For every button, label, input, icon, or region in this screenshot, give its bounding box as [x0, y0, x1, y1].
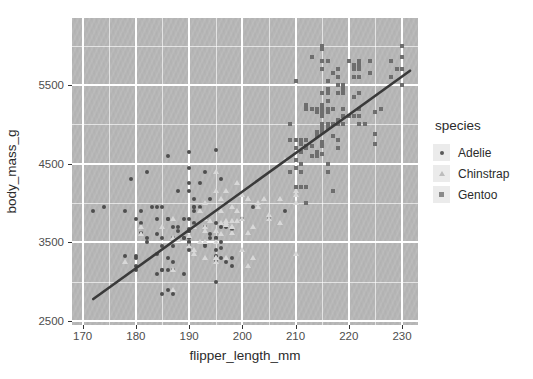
data-point-chinstrap: [223, 218, 229, 223]
y-tick-mark: [68, 164, 72, 165]
data-point-chinstrap: [234, 218, 240, 223]
data-point-chinstrap: [245, 196, 251, 201]
x-tick-label: 210: [286, 330, 305, 342]
data-point-gentoo: [299, 170, 303, 174]
data-point-adelie: [171, 244, 175, 248]
data-point-gentoo: [326, 107, 330, 111]
data-point-chinstrap: [282, 157, 288, 162]
x-tick-mark: [83, 325, 84, 329]
data-point-adelie: [166, 217, 170, 221]
data-point-chinstrap: [277, 196, 283, 201]
data-point-gentoo: [326, 110, 330, 114]
legend-key-swatch: [433, 186, 450, 203]
y-axis-label: body_mass_g: [0, 18, 22, 325]
data-point-adelie: [182, 236, 186, 240]
gridline-minor-vertical: [109, 18, 110, 325]
data-point-adelie: [219, 177, 223, 181]
legend-item-adelie[interactable]: Adelie: [433, 142, 533, 163]
data-point-adelie: [139, 221, 143, 225]
data-point-gentoo: [352, 114, 356, 118]
data-point-chinstrap: [170, 216, 176, 221]
x-tick-mark: [136, 325, 137, 329]
gridline-major-vertical: [135, 18, 137, 325]
circle-marker-icon: [440, 151, 444, 155]
data-point-chinstrap: [255, 204, 261, 209]
data-point-chinstrap: [229, 224, 235, 229]
data-point-adelie: [203, 244, 207, 248]
data-point-gentoo: [389, 59, 393, 63]
legend-item-gentoo[interactable]: Gentoo: [433, 184, 533, 205]
data-point-chinstrap: [229, 224, 235, 229]
data-point-gentoo: [357, 67, 361, 71]
y-tick-label: 5500: [38, 79, 64, 91]
data-point-chinstrap: [245, 196, 251, 201]
data-point-adelie: [198, 205, 202, 209]
data-point-gentoo: [299, 170, 303, 174]
data-point-adelie: [192, 205, 196, 209]
data-point-gentoo: [304, 144, 308, 148]
data-point-adelie: [219, 246, 223, 250]
data-point-adelie: [230, 264, 234, 268]
data-point-adelie: [139, 231, 143, 235]
data-point-gentoo: [368, 71, 372, 75]
data-point-gentoo: [331, 71, 335, 75]
data-point-gentoo: [304, 146, 308, 150]
data-point-chinstrap: [223, 255, 229, 260]
data-point-chinstrap: [218, 208, 224, 213]
x-tick-label: 170: [73, 330, 92, 342]
data-point-gentoo: [341, 107, 345, 111]
data-point-chinstrap: [277, 220, 283, 225]
gridline-minor-vertical: [375, 18, 376, 325]
data-point-chinstrap: [202, 224, 208, 229]
y-tick-label: 4500: [38, 158, 64, 170]
data-point-gentoo: [304, 138, 308, 142]
y-tick-label: 2500: [38, 315, 64, 327]
data-point-adelie: [171, 260, 175, 264]
data-point-gentoo: [336, 91, 340, 95]
data-point-gentoo: [352, 95, 356, 99]
data-point-gentoo: [288, 138, 292, 142]
legend-item-chinstrap[interactable]: Chinstrap: [433, 163, 533, 184]
data-point-adelie: [192, 221, 196, 225]
data-point-gentoo: [326, 99, 330, 103]
data-point-gentoo: [315, 130, 319, 134]
data-point-gentoo: [395, 67, 399, 71]
x-tick-label: 180: [126, 330, 145, 342]
data-point-chinstrap: [138, 224, 144, 229]
data-point-adelie: [208, 232, 212, 236]
data-point-adelie: [219, 256, 223, 260]
data-point-chinstrap: [202, 216, 208, 221]
triangle-marker-icon: [439, 171, 445, 176]
data-point-gentoo: [315, 134, 319, 138]
regression-trendline: [72, 18, 418, 325]
legend-title: species: [435, 118, 533, 133]
data-point-chinstrap: [197, 208, 203, 213]
data-point-adelie: [155, 252, 159, 256]
data-point-chinstrap: [245, 230, 251, 235]
y-tick-mark: [68, 85, 72, 86]
y-tick-mark: [68, 242, 72, 243]
data-point-gentoo: [379, 107, 383, 111]
data-point-adelie: [208, 197, 212, 201]
data-point-adelie: [123, 209, 127, 213]
y-axis-label-text: body_mass_g: [4, 129, 19, 213]
x-tick-mark: [296, 325, 297, 329]
data-point-adelie: [155, 272, 159, 276]
data-point-adelie: [176, 189, 180, 193]
data-point-chinstrap: [191, 251, 197, 256]
data-point-chinstrap: [229, 218, 235, 223]
data-point-adelie: [182, 236, 186, 240]
gridline-major-vertical: [295, 18, 297, 325]
data-point-gentoo: [357, 91, 361, 95]
data-point-gentoo: [310, 55, 314, 59]
legend: species AdelieChinstrapGentoo: [433, 118, 533, 205]
data-point-gentoo: [326, 91, 330, 95]
data-point-gentoo: [331, 107, 335, 111]
data-point-adelie: [171, 292, 175, 296]
data-point-gentoo: [326, 59, 330, 63]
data-point-gentoo: [357, 107, 361, 111]
data-point-adelie: [219, 225, 223, 229]
data-point-adelie: [224, 225, 228, 229]
gridline-major-horizontal: [72, 320, 418, 322]
data-point-adelie: [182, 272, 186, 276]
